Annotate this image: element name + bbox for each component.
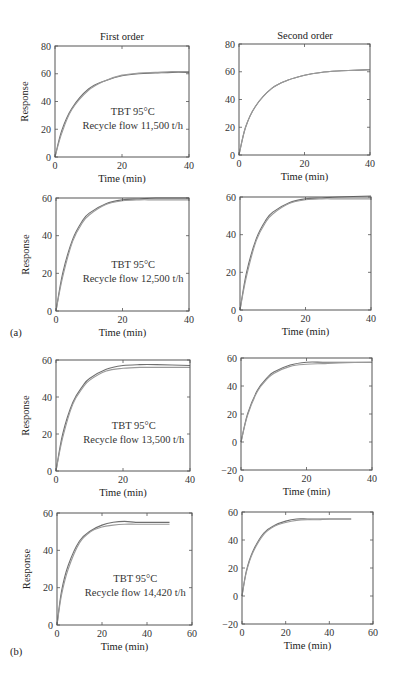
x-tick-label: 20 [117,160,127,171]
y-tick-label: 60 [227,353,237,364]
series-measured [240,196,371,310]
y-tick-label: 20 [42,429,52,440]
axes-frame [241,358,372,470]
y-tick-label: 60 [226,192,236,203]
figure-canvas: First order Second order (a) (b) 0204002… [0,0,397,676]
x-tick-label: 20 [118,474,128,485]
y-tick-label: 40 [42,392,52,403]
annotation-temperature: TBT 95°C [112,420,156,431]
y-tick-label: 0 [47,466,52,477]
x-tick-label: 40 [324,627,334,638]
x-tick-label: 60 [368,627,378,638]
part-label-a: (a) [10,327,22,339]
y-tick-label: 20 [41,124,51,135]
x-tick-label: 40 [366,313,376,324]
x-tick-label: 40 [184,160,194,171]
column-title-first-order: First order [100,31,145,42]
axes-frame [57,513,192,625]
subplot-r1-c0: 020400204060Time (min)ResponseTBT 95°CRe… [20,193,194,340]
y-tick-label: 0 [231,305,236,316]
subplot-r0-c0: 02040020406080Time (min)ResponseTBT 95°C… [19,41,194,186]
part-label-b: (b) [10,646,23,658]
annotation-temperature: TBT 95°C [113,573,157,584]
x-axis-label: Time (min) [99,327,147,339]
x-axis-label: Time (min) [281,171,329,183]
y-tick-label: 60 [228,507,238,518]
y-tick-label: 40 [225,94,235,105]
series-second-order-model [239,70,370,155]
y-tick-label: 60 [41,68,51,79]
x-tick-label: 60 [187,628,197,639]
y-tick-label: 0 [46,152,51,163]
y-tick-label: 60 [225,66,235,77]
axes-frame [55,46,189,157]
y-axis-label: Response [20,234,31,275]
y-tick-label: 60 [42,355,52,366]
y-tick-label: 20 [227,409,237,420]
annotation-recycle-flow: Recycle flow 13,500 t/h [83,434,185,445]
y-tick-label: 40 [228,535,238,546]
x-axis-label: Time (min) [101,641,149,653]
series-second-order-model [241,362,372,442]
y-tick-label: 0 [47,306,52,317]
x-tick-label: 0 [55,628,60,639]
y-tick-label: 0 [233,591,238,602]
y-tick-label: 40 [227,381,237,392]
axes-frame [240,197,371,310]
y-tick-label: 40 [43,545,53,556]
y-tick-label: 40 [226,229,236,240]
y-axis-label: Response [21,549,32,590]
y-tick-label: 20 [228,563,238,574]
axes-frame [239,44,370,155]
y-tick-label: 20 [225,122,235,133]
x-tick-label: 20 [300,158,310,169]
series-second-order-model [240,199,371,310]
subplot-grid: 02040020406080Time (min)ResponseTBT 95°C… [19,39,378,654]
y-tick-label: −20 [221,465,237,476]
x-tick-label: 0 [54,314,59,325]
y-axis-label: Response [20,395,31,436]
y-tick-label: 20 [226,267,236,278]
subplot-r2-c0: 020400204060Time (min)ResponseTBT 95°CRe… [20,355,195,500]
x-tick-label: 0 [240,627,245,638]
x-tick-label: 0 [239,473,244,484]
x-tick-label: 0 [238,313,243,324]
series-measured [56,198,189,311]
x-tick-label: 40 [185,474,195,485]
subplot-r3-c0: 02040600204060Time (min)ResponseTBT 95°C… [21,508,197,654]
axes-frame [56,360,190,471]
series-measured [56,365,190,471]
x-tick-label: 40 [367,473,377,484]
y-tick-label: −20 [222,619,238,630]
x-tick-label: 20 [302,473,312,484]
x-tick-label: 20 [97,628,107,639]
x-axis-label: Time (min) [99,487,147,499]
annotation-recycle-flow: Recycle flow 11,500 t/h [82,120,183,131]
x-axis-label: Time (min) [282,326,330,338]
y-tick-label: 20 [42,268,52,279]
x-axis-label: Time (min) [283,486,331,498]
y-tick-label: 80 [225,39,235,50]
series-second-order-model [242,519,351,596]
x-tick-label: 40 [142,628,152,639]
axes-frame [242,512,373,624]
subplot-r0-c1: 02040020406080Time (min) [225,39,375,184]
x-tick-label: 20 [118,314,128,325]
annotation-temperature: TBT 95°C [111,106,155,117]
x-tick-label: 0 [237,158,242,169]
y-tick-label: 60 [42,193,52,204]
axes-frame [56,198,189,311]
series-measured [241,362,372,442]
annotation-temperature: TBT 95°C [111,259,155,270]
y-axis-label: Response [19,81,30,122]
y-tick-label: 80 [41,41,51,52]
subplot-r2-c1: 02040−200204060Time (min) [221,353,377,499]
x-tick-label: 0 [53,160,58,171]
column-title-second-order: Second order [277,30,333,41]
series-measured [242,519,351,596]
x-tick-label: 40 [365,158,375,169]
subplot-r1-c1: 020400204060Time (min) [226,192,376,339]
x-tick-label: 20 [281,627,291,638]
x-tick-label: 20 [301,313,311,324]
x-axis-label: Time (min) [98,173,146,185]
